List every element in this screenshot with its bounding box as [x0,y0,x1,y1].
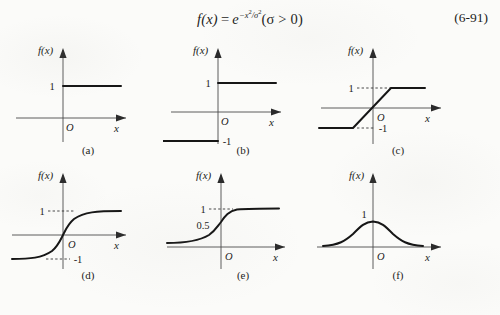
x-axis-label: x [272,251,278,263]
x-axis-label: x [424,251,430,263]
y-tick-1: 1 [361,209,366,220]
y-axis-arrowhead [214,48,221,58]
y-axis-label: f(x) [349,169,365,182]
x-axis-label: x [113,122,119,134]
y-tick-neg1: -1 [379,123,388,134]
y-axis-label: f(x) [196,169,212,182]
y-axis-arrowhead [59,173,66,183]
y-axis-label: f(x) [348,44,364,57]
curve-logistic [167,209,279,244]
y-tick-half: 0.5 [196,220,209,231]
origin-label: O [225,251,233,262]
y-tick-1: 1 [200,204,205,215]
origin-label: O [377,251,385,262]
y-axis-arrowhead [369,173,376,183]
subplot-c-caption: (c) [313,144,483,156]
equation-equals: = [218,11,232,27]
origin-label: O [68,239,76,250]
subplot-b: f(x) x O 1 -1 (b) [163,40,323,168]
x-axis-arrowhead [116,231,126,238]
equation-condition: (σ > 0) [261,11,303,27]
y-axis-arrowhead [59,48,66,58]
x-axis-arrowhead [431,243,441,250]
x-axis-label: x [268,116,274,128]
subplot-f-caption: (f) [313,269,483,281]
y-tick-1: 1 [348,83,353,94]
subplot-d: f(x) x O 1 -1 (d) [8,165,168,293]
x-axis-arrowhead [271,108,281,115]
y-tick-1: 1 [49,81,54,92]
x-axis-arrowhead [275,243,285,250]
subplot-a-caption: (a) [8,144,168,156]
y-tick-1: 1 [39,206,44,217]
x-axis-arrowhead [431,104,441,111]
x-axis-label: x [424,112,430,124]
figure-panel-grid: f(x) x O 1 (a) f(x) x O 1 -1 [0,40,500,315]
subplot-c: f(x) x O 1 -1 (c) [313,40,473,168]
y-axis-label: f(x) [193,44,209,57]
equation-exponent: −x2/σ2 [239,10,262,20]
x-axis-label: x [113,239,119,251]
subplot-a: f(x) x O 1 (a) [8,40,168,168]
equation-row: f(x)=e−x2/σ2(σ > 0) (6-91) [0,8,500,34]
subplot-e: f(x) x O 1 0.5 (e) [163,165,323,293]
y-tick-1: 1 [205,78,210,89]
subplot-d-canvas: f(x) x O 1 -1 [8,165,168,275]
subplot-f-canvas: f(x) x O 1 [313,165,473,275]
equation-base: e [232,11,239,27]
subplot-b-canvas: f(x) x O 1 -1 [163,40,323,150]
origin-label: O [66,122,74,133]
equation-lhs: f(x) [197,11,218,27]
subplot-c-canvas: f(x) x O 1 -1 [313,40,473,150]
subplot-f: f(x) x O 1 (f) [313,165,473,293]
y-axis-label: f(x) [38,169,54,182]
origin-label: O [377,112,385,123]
origin-label: O [221,116,229,127]
subplot-d-caption: (d) [8,269,168,281]
equation-number: (6-91) [454,10,488,26]
x-axis-arrowhead [116,114,126,121]
subplot-e-caption: (e) [163,269,323,281]
subplot-a-canvas: f(x) x O 1 [8,40,168,150]
y-axis-arrowhead [369,48,376,58]
subplot-b-caption: (b) [163,144,323,156]
y-axis-label: f(x) [38,44,54,57]
y-tick-neg1: -1 [74,254,83,265]
subplot-e-canvas: f(x) x O 1 0.5 [163,165,323,275]
y-axis-arrowhead [217,173,224,183]
equation-expression: f(x)=e−x2/σ2(σ > 0) [0,8,500,28]
